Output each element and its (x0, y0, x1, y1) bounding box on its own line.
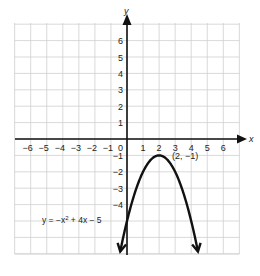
x-tick-label: −1 (103, 143, 113, 153)
x-tick-label: −4 (55, 143, 65, 153)
x-tick-label: 1 (141, 143, 146, 153)
equation-prefix: y = −x (42, 215, 66, 225)
x-axis-arrow-icon (237, 135, 247, 144)
y-tick-label: 2 (118, 102, 123, 112)
y-tick-label: 3 (118, 85, 123, 95)
y-tick-label: −3 (113, 184, 123, 194)
y-tick-label: −1 (113, 151, 123, 161)
equation-suffix: + 4x − 5 (69, 215, 102, 225)
x-tick-label: −3 (71, 143, 81, 153)
y-tick-label: 1 (118, 118, 123, 128)
x-tick-label: 5 (205, 143, 210, 153)
coordinate-plane: x y −6−5−4−3−2−10123456654321−1−2−3−4 (2… (0, 0, 260, 276)
vertex-label: (2, −1) (172, 151, 198, 161)
y-tick-label: 4 (118, 69, 123, 79)
y-tick-label: 6 (118, 36, 123, 46)
y-tick-label: 5 (118, 53, 123, 63)
x-tick-label: 6 (221, 143, 226, 153)
y-tick-label: −2 (113, 167, 123, 177)
tick-labels: −6−5−4−3−2−10123456654321−1−2−3−4 (23, 36, 226, 210)
y-axis-label: y (123, 6, 129, 16)
x-tick-label: 2 (157, 143, 162, 153)
x-tick-label: −2 (87, 143, 97, 153)
x-tick-label: −5 (39, 143, 49, 153)
equation-label: y = −x2 + 4x − 5 (42, 215, 102, 225)
x-tick-label: −6 (23, 143, 33, 153)
y-tick-label: −4 (113, 200, 123, 210)
x-axis-label: x (248, 134, 254, 144)
